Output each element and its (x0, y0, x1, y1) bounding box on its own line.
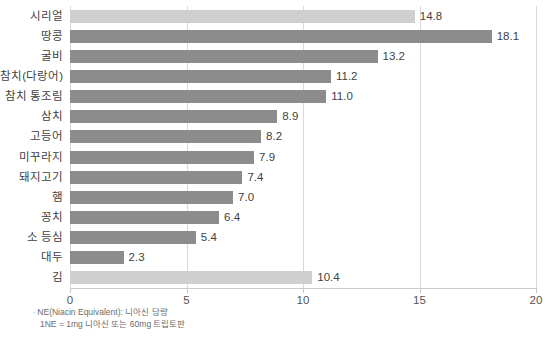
bar[interactable] (70, 110, 277, 123)
footnote-line-2: 1NE = 1mg 니아신 또는 60mg 트립토판 (33, 318, 185, 330)
category-label: 굴비 (41, 51, 63, 63)
footnote-line-1: ·NE(Niacin Equivalent): 니아신 당량 (33, 306, 185, 318)
niacin-equivalent-bar-chart: 시리얼14.8땅콩18.1굴비13.2참치(다랑어)11.2참치 통조림11.0… (0, 0, 557, 347)
plot-area: 시리얼14.8땅콩18.1굴비13.2참치(다랑어)11.2참치 통조림11.0… (70, 6, 536, 288)
category-label: 고등어 (30, 131, 63, 143)
category-label: 소 등심 (27, 232, 63, 244)
category-label: 햄 (52, 192, 63, 204)
bar-row[interactable]: 돼지고기7.4 (70, 171, 536, 184)
bar-row[interactable]: 꽁치6.4 (70, 211, 536, 224)
category-label: 땅콩 (41, 31, 63, 43)
x-tick-mark-0 (70, 288, 71, 293)
bar-row[interactable]: 땅콩18.1 (70, 30, 536, 43)
bar-row[interactable]: 햄7.0 (70, 191, 536, 204)
category-label: 시리얼 (30, 11, 63, 23)
gridline-20 (536, 6, 537, 288)
bar[interactable] (70, 10, 415, 23)
footnotes: ·NE(Niacin Equivalent): 니아신 당량 1NE = 1mg… (33, 306, 185, 331)
bar-value-label: 2.3 (129, 252, 145, 264)
bar[interactable] (70, 130, 261, 143)
bar-row[interactable]: 소 등심5.4 (70, 231, 536, 244)
bar-value-label: 7.4 (247, 172, 263, 184)
x-tick-mark-20 (536, 288, 537, 293)
bar-value-label: 11.2 (336, 71, 358, 83)
category-label: 참치 통조림 (5, 91, 63, 103)
bar-value-label: 13.2 (383, 51, 405, 63)
bar[interactable] (70, 231, 196, 244)
bar[interactable] (70, 191, 233, 204)
bar-value-label: 11.0 (331, 91, 353, 103)
category-label: 돼지고기 (19, 172, 63, 184)
category-label: 대두 (41, 252, 63, 264)
bar-value-label: 7.9 (259, 152, 275, 164)
x-tick-label-5: 5 (183, 295, 189, 307)
bar-value-label: 14.8 (420, 11, 442, 23)
category-label: 꽁치 (41, 212, 63, 224)
bar-value-label: 8.2 (266, 131, 282, 143)
bar-value-label: 7.0 (238, 192, 254, 204)
bar-row[interactable]: 시리얼14.8 (70, 10, 536, 23)
bar[interactable] (70, 70, 331, 83)
bar-value-label: 6.4 (224, 212, 240, 224)
bar-row[interactable]: 고등어8.2 (70, 130, 536, 143)
bar[interactable] (70, 30, 492, 43)
bar[interactable] (70, 171, 242, 184)
bar[interactable] (70, 251, 124, 264)
category-label: 미꾸라지 (19, 152, 63, 164)
x-tick-mark-10 (303, 288, 304, 293)
x-tick-label-15: 15 (413, 295, 426, 307)
bar-value-label: 10.4 (317, 272, 339, 284)
bar-value-label: 18.1 (497, 31, 519, 43)
bar[interactable] (70, 90, 326, 103)
x-tick-mark-15 (420, 288, 421, 293)
bar-row[interactable]: 참치(다랑어)11.2 (70, 70, 536, 83)
bar[interactable] (70, 211, 219, 224)
category-label: 참치(다랑어) (0, 71, 63, 83)
x-tick-label-20: 20 (530, 295, 543, 307)
category-label: 김 (52, 272, 63, 284)
bar-row[interactable]: 삼치8.9 (70, 110, 536, 123)
category-label: 삼치 (41, 111, 63, 123)
footnote-bullet-icon: · (33, 309, 35, 316)
bar-row[interactable]: 참치 통조림11.0 (70, 90, 536, 103)
bar[interactable] (70, 271, 312, 284)
bar-row[interactable]: 대두2.3 (70, 251, 536, 264)
x-tick-label-10: 10 (297, 295, 310, 307)
bar[interactable] (70, 50, 378, 63)
footnote-text-2: 1NE = 1mg 니아신 또는 60mg 트립토판 (40, 319, 185, 329)
x-tick-mark-5 (187, 288, 188, 293)
footnote-text-1: NE(Niacin Equivalent): 니아신 당량 (37, 307, 167, 317)
bar-row[interactable]: 미꾸라지7.9 (70, 151, 536, 164)
bar[interactable] (70, 151, 254, 164)
x-tick-label-0: 0 (67, 295, 73, 307)
bar-row[interactable]: 굴비13.2 (70, 50, 536, 63)
bar-row[interactable]: 김10.4 (70, 271, 536, 284)
bar-value-label: 8.9 (282, 111, 298, 123)
bar-value-label: 5.4 (201, 232, 217, 244)
